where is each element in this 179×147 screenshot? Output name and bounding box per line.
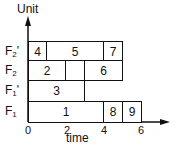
task-3: 3: [28, 80, 85, 102]
x-tick-0: 0: [21, 124, 35, 136]
x-tick-2: 2: [60, 124, 74, 136]
x-axis-arrow-icon: [160, 119, 170, 125]
row-label-f1-prime: F1': [5, 83, 25, 98]
task-4: 4: [28, 41, 47, 62]
row-label-f2: F2: [5, 63, 25, 78]
task-1: 1: [28, 101, 104, 123]
y-axis-arrow-icon: [25, 16, 31, 26]
row-label-f1: F1: [5, 104, 25, 119]
task-8: 8: [103, 101, 123, 123]
task-idle: [65, 60, 85, 81]
task-7: 7: [103, 41, 123, 62]
y-axis-label: Unit: [17, 2, 38, 16]
task-2: 2: [28, 60, 66, 81]
task-5: 5: [46, 41, 104, 62]
x-tick-6: 6: [134, 124, 148, 136]
row-label-f2-prime: F2': [5, 44, 25, 59]
task-6: 6: [84, 60, 123, 81]
x-tick-4: 4: [97, 124, 111, 136]
task-9: 9: [122, 101, 142, 123]
